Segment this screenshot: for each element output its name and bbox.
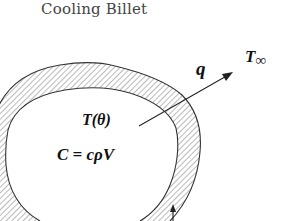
ambient-temperature-label: T∞ bbox=[245, 47, 266, 69]
figure-title: Cooling Billet bbox=[41, 0, 147, 18]
cooling-billet-figure: Cooling Billet q T∞ T(θ) C = cρV bbox=[0, 0, 295, 221]
heat-capacity-label: C = cρV bbox=[57, 145, 114, 165]
billet-shell-hatch bbox=[0, 0, 295, 221]
billet-drawing bbox=[0, 0, 295, 221]
infinity-subscript: ∞ bbox=[255, 52, 266, 68]
billet-temperature-label: T(θ) bbox=[82, 111, 111, 129]
ambient-temperature-symbol: T bbox=[245, 47, 255, 66]
heat-flux-label: q bbox=[196, 58, 206, 80]
